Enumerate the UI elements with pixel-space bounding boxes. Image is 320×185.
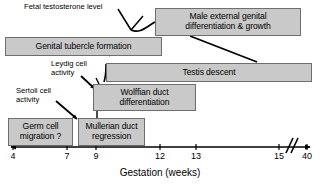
bar-genital-tubercle-formation[interactable]: Genital tubercle formation [5,37,162,56]
bar-label-germ-cell-migration: Germ cell migration ? [9,122,72,141]
axis-tick-label-12: 12 [155,151,165,161]
bar-label-wolffian-duct-differentiation: Wolffian duct differentiation [94,88,195,107]
axis-break-icon [286,138,298,153]
axis-tick-label-13: 13 [191,151,201,161]
bar-male-external-genital[interactable]: Male external genital differentiation & … [155,8,301,36]
bar-label-genital-tubercle-formation: Genital tubercle formation [6,42,161,52]
bar-label-male-external-genital: Male external genital differentiation & … [156,12,300,31]
annotation-sertoli-cell-activity: Sertoli cell activity [16,87,51,105]
fetal-testosterone-connector [118,9,155,31]
bar-wolffian-duct-differentiation[interactable]: Wolffian duct differentiation [93,84,196,111]
annotation-leydig-cell-activity: Leydig cell activity [51,60,87,78]
male-external-to-testis-descent-line [190,36,257,62]
bar-label-mullerian-duct-regression: Mullerian duct regression [79,122,144,141]
axis-tick-label-9: 9 [93,151,98,161]
bar-testis-descent[interactable]: Testis descent [106,63,312,82]
bar-mullerian-duct-regression[interactable]: Mullerian duct regression [78,118,145,146]
sertoli-arrow [56,101,77,119]
axis-tick-label-7: 7 [64,151,69,161]
axis-tick-label-15: 15 [274,151,284,161]
gestation-timeline-figure: Male external genital differentiation & … [0,0,320,185]
annotation-fetal-testosterone-level: Fetal testosterone level [24,3,103,12]
axis-tick-label-4: 4 [10,151,15,161]
bar-label-testis-descent: Testis descent [107,68,311,78]
axis-tick-label-40: 40 [302,151,312,161]
bar-germ-cell-migration[interactable]: Germ cell migration ? [8,118,73,146]
axis-title-gestation-weeks: Gestation (weeks) [0,167,320,178]
